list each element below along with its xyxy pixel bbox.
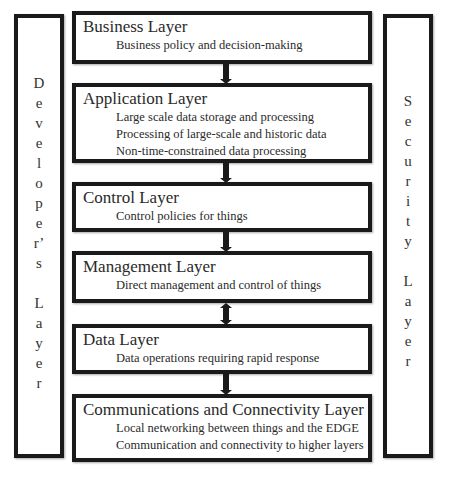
layer-item: Communication and connectivity to higher… [83, 437, 368, 454]
security-layer-label: S e c u r i t y L a y e r [403, 91, 412, 371]
layer-item: Data operations requiring rapid response [83, 350, 368, 367]
business-layer-box: Business Layer Business policy and decis… [72, 11, 372, 64]
layer-item: Local networking between things and the … [83, 420, 368, 437]
communications-layer-box: Communications and Connectivity Layer Lo… [72, 394, 372, 462]
label-char: y [404, 311, 412, 331]
label-char: S [404, 91, 412, 111]
layer-item: Large scale data storage and processing [83, 109, 368, 126]
label-char: t [406, 211, 410, 231]
layer-title: Control Layer [83, 188, 368, 208]
layer-item: Business policy and decision-making [83, 37, 368, 54]
data-layer-box: Data Layer Data operations requiring rap… [72, 324, 372, 374]
label-char: c [405, 131, 412, 151]
layer-item: Direct management and control of things [83, 277, 368, 294]
label-char: p [35, 193, 43, 213]
developers-layer-label: D e v e l o p e r’ s L a y e r [34, 73, 45, 393]
label-char: i [406, 191, 410, 211]
label-char: e [36, 133, 43, 153]
label-char: a [405, 291, 412, 311]
label-char: a [36, 313, 43, 333]
label-char: l [37, 153, 41, 173]
layer-title: Communications and Connectivity Layer [83, 400, 368, 420]
label-char: y [404, 231, 412, 251]
layer-item: Control policies for things [83, 208, 368, 225]
label-char: o [35, 173, 43, 193]
label-char: e [36, 93, 43, 113]
arrow-bidirectional-icon [221, 303, 231, 325]
label-char: D [34, 73, 45, 93]
label-char: L [403, 271, 412, 291]
label-char: L [34, 293, 43, 313]
arrow-down-icon [221, 64, 231, 84]
control-layer-box: Control Layer Control policies for thing… [72, 182, 372, 232]
layer-title: Business Layer [83, 17, 368, 37]
label-char: r [37, 373, 42, 393]
label-char: e [36, 353, 43, 373]
label-char: e [36, 213, 43, 233]
security-layer: S e c u r i t y L a y e r [383, 14, 433, 458]
label-char: r’ [34, 233, 45, 253]
arrow-down-icon [221, 232, 231, 252]
layer-item: Non-time-constrained data processing [83, 143, 368, 160]
label-char: u [404, 151, 412, 171]
label-char: r [405, 351, 410, 371]
label-char: e [405, 331, 412, 351]
label-char: e [405, 111, 412, 131]
label-char: r [405, 171, 410, 191]
label-char: v [35, 113, 43, 133]
label-char: y [35, 333, 43, 353]
label-char: s [36, 253, 42, 273]
layer-title: Data Layer [83, 330, 368, 350]
layer-title: Application Layer [83, 89, 368, 109]
layer-item: Processing of large-scale and historic d… [83, 126, 368, 143]
developers-layer: D e v e l o p e r’ s L a y e r [14, 14, 64, 458]
arrow-down-icon [221, 374, 231, 395]
arrow-down-icon [221, 163, 231, 183]
layer-title: Management Layer [83, 257, 368, 277]
management-layer-box: Management Layer Direct management and c… [72, 251, 372, 303]
application-layer-box: Application Layer Large scale data stora… [72, 83, 372, 163]
